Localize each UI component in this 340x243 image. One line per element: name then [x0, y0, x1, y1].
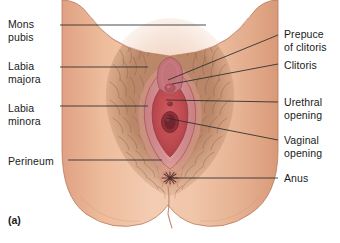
label-prepuce-of-clitoris: Prepuce of clitoris	[284, 28, 327, 53]
label-vaginal-opening: Vaginal opening	[284, 134, 322, 159]
anatomical-figure: Mons pubis Labia majora Labia minora Per…	[0, 0, 340, 243]
label-labia-majora: Labia majora	[8, 60, 41, 85]
label-mons-pubis: Mons pubis	[8, 18, 34, 43]
clitoris	[165, 84, 175, 92]
label-labia-minora: Labia minora	[8, 102, 41, 127]
label-anus: Anus	[284, 172, 308, 185]
label-perineum: Perineum	[8, 155, 54, 168]
label-clitoris: Clitoris	[284, 59, 317, 72]
figure-caption: (a)	[8, 214, 21, 226]
label-urethral-opening: Urethral opening	[284, 96, 322, 121]
urethral-opening	[167, 102, 172, 106]
